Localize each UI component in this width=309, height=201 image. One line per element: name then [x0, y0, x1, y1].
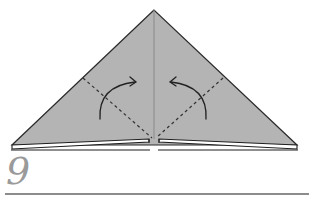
divider-rule	[5, 193, 309, 195]
step-number: 9	[6, 152, 30, 190]
origami-diagram	[0, 0, 309, 201]
